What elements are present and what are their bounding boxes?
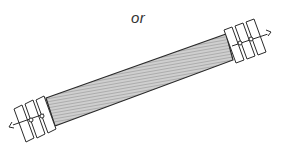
roller-illustration	[0, 0, 285, 154]
roller-bar	[46, 34, 233, 126]
